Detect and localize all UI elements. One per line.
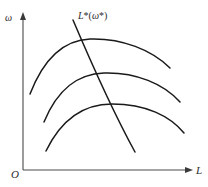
demand-label-omega: ω xyxy=(92,10,99,21)
origin-label: O xyxy=(11,169,19,180)
isoprofit-curve-top xyxy=(30,39,170,94)
omega-axis-label: ω xyxy=(5,13,12,23)
labor-demand-curve-label: L*(ω*) xyxy=(78,10,107,21)
l-axis-arrowhead xyxy=(185,167,193,173)
l-axis-label: L xyxy=(196,165,202,176)
figure-canvas xyxy=(0,0,208,187)
demand-label-close-paren: ) xyxy=(104,10,107,21)
economics-diagram-figure: ω L O L*(ω*) xyxy=(0,0,208,187)
omega-axis-arrowhead xyxy=(20,12,26,20)
isoprofit-curve-bottom xyxy=(46,104,184,151)
